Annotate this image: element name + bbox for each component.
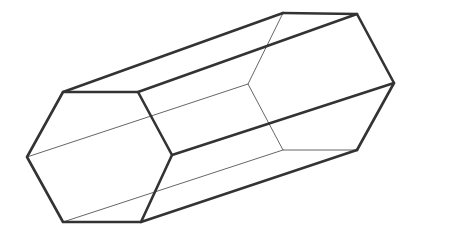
hexagonal-prism-figure (0, 0, 452, 235)
figure-stage (0, 0, 452, 235)
